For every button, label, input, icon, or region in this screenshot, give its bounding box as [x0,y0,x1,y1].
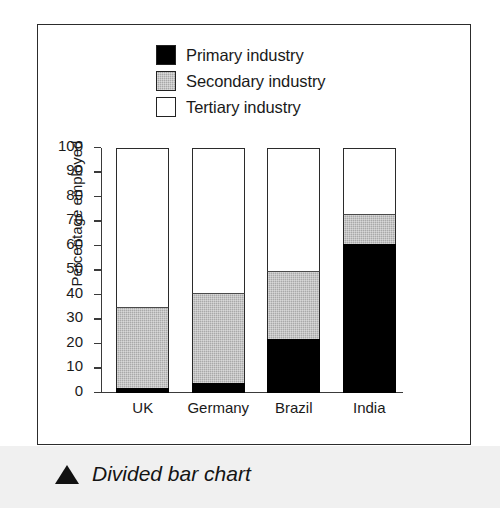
y-axis-tick-label: 50 [66,259,83,276]
y-axis-tick-label: 30 [66,308,83,325]
y-axis-tick: 90 [94,171,101,172]
bar-segment-secondary[interactable] [192,293,245,384]
bar-group[interactable]: UK [116,148,169,393]
bar-segment-tertiary[interactable] [192,148,245,293]
bar-group[interactable]: Brazil [267,148,320,393]
y-axis-tick-label: 90 [66,161,83,178]
bar-stack [343,148,396,393]
y-axis-tick: 30 [94,318,101,319]
y-axis-tick-label: 40 [66,284,83,301]
bar-stack [192,148,245,393]
y-axis-tick-label: 100 [58,137,83,154]
y-axis-tick: 80 [94,196,101,197]
bar-segment-tertiary[interactable] [267,148,320,271]
y-axis-line [101,148,102,393]
bar-segment-primary[interactable] [192,383,245,393]
y-axis-tick-label: 70 [66,210,83,227]
y-axis-tick: 10 [94,367,101,368]
bar-segment-primary[interactable] [116,388,169,393]
y-axis-tick-label: 80 [66,186,83,203]
bar-stack [116,148,169,393]
y-axis-tick: 60 [94,245,101,246]
plot-area: 1009080706050403020100 UKGermanyBrazilIn… [101,148,403,393]
y-axis-tick: 20 [94,343,101,344]
bar-segment-secondary[interactable] [267,271,320,340]
bar-segment-primary[interactable] [267,339,320,393]
bar-group[interactable]: India [343,148,396,393]
y-axis-tick: 100 [94,147,101,148]
bar-segment-secondary[interactable] [116,307,169,388]
caption-text: Divided bar chart [92,462,251,486]
y-axis-tick-label: 20 [66,333,83,350]
x-axis-tick-label: Germany [187,399,249,416]
triangle-up-icon [55,465,79,484]
bar-stack [267,148,320,393]
y-axis-tick-label: 60 [66,235,83,252]
x-axis-tick-label: UK [132,399,153,416]
bar-segment-tertiary[interactable] [116,148,169,307]
x-axis-tick-label: India [353,399,386,416]
y-axis-tick-label: 10 [66,357,83,374]
y-axis-tick: 50 [94,269,101,270]
bar-segment-secondary[interactable] [343,214,396,243]
caption: Divided bar chart [55,462,251,486]
bar-segment-primary[interactable] [343,244,396,393]
plot-wrapper: Percentage employed 10090807060504030201… [38,25,472,446]
y-axis-tick: 40 [94,294,101,295]
x-axis-tick-label: Brazil [275,399,313,416]
y-axis-tick: 0 [94,392,101,393]
y-axis-tick-label: 0 [75,382,83,399]
y-axis-tick: 70 [94,220,101,221]
figure-frame: Primary industry Secondary industry Tert… [37,24,471,445]
bar-segment-tertiary[interactable] [343,148,396,214]
bar-group[interactable]: Germany [192,148,245,393]
